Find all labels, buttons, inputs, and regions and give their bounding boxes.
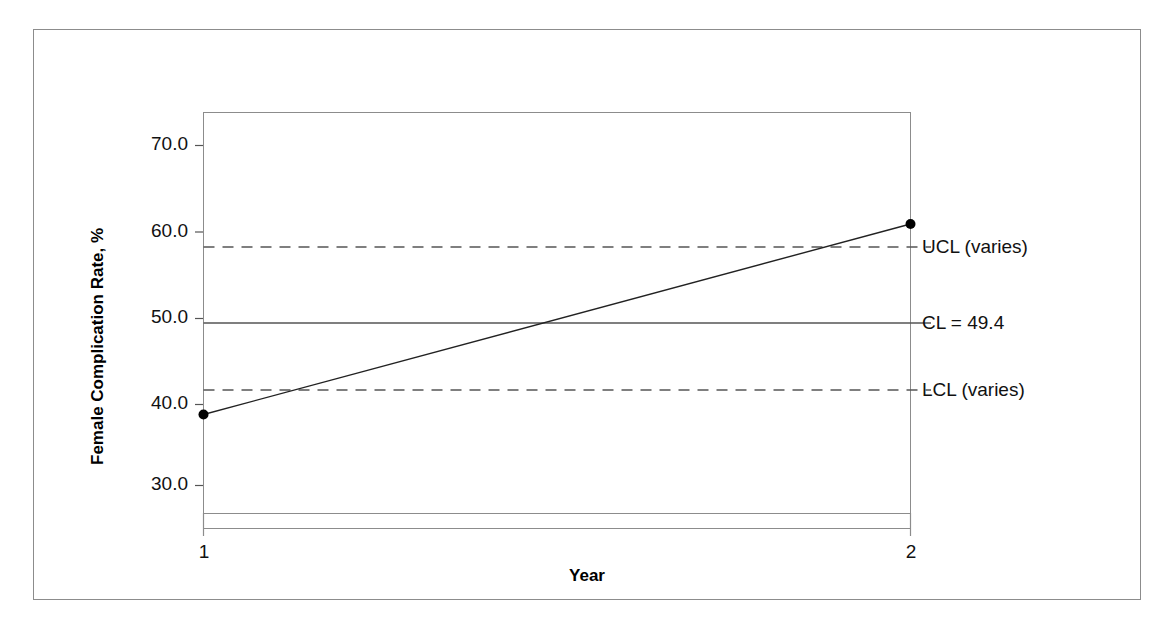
data-point-year-1 (199, 410, 209, 420)
x-axis-line-group (204, 513, 911, 536)
plot-frame (204, 113, 911, 514)
x-tick-label-1: 1 (174, 541, 234, 563)
y-axis-ticks (195, 146, 203, 486)
cl-label: CL = 49.4 (922, 312, 1004, 334)
x-axis-title: Year (0, 566, 1174, 586)
x-tick-label-2: 2 (881, 541, 941, 563)
chart-page: 70.0 60.0 50.0 40.0 30.0 1 2 Female Comp… (0, 0, 1174, 637)
y-tick-label-60: 60.0 (104, 220, 188, 242)
series-line (204, 224, 911, 415)
ucl-label: UCL (varies) (922, 236, 1028, 258)
y-tick-label-50: 50.0 (104, 306, 188, 328)
y-tick-label-70: 70.0 (104, 133, 188, 155)
y-tick-label-40: 40.0 (104, 392, 188, 414)
lcl-label: LCL (varies) (922, 379, 1025, 401)
data-point-year-2 (906, 219, 916, 229)
y-tick-label-30: 30.0 (104, 473, 188, 495)
y-axis-title: Female Complication Rate, % (88, 228, 108, 465)
